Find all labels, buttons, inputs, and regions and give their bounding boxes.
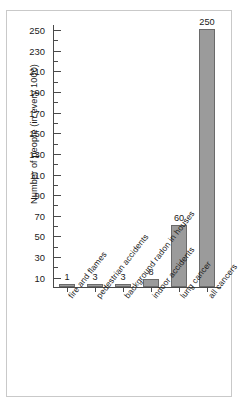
y-axis-line [53,25,54,288]
bar-value-label: 250 [199,17,214,27]
y-axis-tick-minor [54,144,58,145]
y-axis-tick-label: 190 [29,87,45,98]
y-axis-tick-minor [54,205,58,206]
chart-figure: Number of people (in every 1000) 1030507… [6,10,232,397]
y-axis-tick-label: 230 [29,45,45,56]
bar [199,29,215,287]
y-axis-tick-minor [54,61,58,62]
y-axis-tick-major [54,92,61,93]
y-axis-tick-label: 90 [35,190,45,201]
y-axis-tick-minor [54,247,58,248]
y-axis-tick-minor [54,40,58,41]
y-axis-tick-label: 10 [35,272,45,283]
y-axis-tick-major [54,71,61,72]
y-axis-tick-major [54,51,61,52]
y-axis-tick-label: 130 [29,148,45,159]
y-axis-tick-minor [54,267,58,268]
y-axis-tick-major [54,133,61,134]
y-axis-tick-label: 70 [35,210,45,221]
y-axis-tick-major [54,113,61,114]
bar-value-label: 1 [64,272,69,282]
y-axis-tick-major [54,216,61,217]
y-axis-tick-label: 250 [29,25,45,36]
y-axis-tick-minor [54,102,58,103]
y-axis-tick-major [54,278,61,279]
y-axis-tick-major [54,195,61,196]
y-axis-tick-label: 30 [35,252,45,263]
y-axis-tick-label: 50 [35,231,45,242]
y-axis-tick-minor [54,82,58,83]
y-axis-tick-major [54,30,61,31]
y-axis-tick-major [54,154,61,155]
y-axis-tick-minor [54,164,58,165]
y-axis-tick-label: 170 [29,107,45,118]
y-axis-tick-minor [54,185,58,186]
y-axis-tick-label: 110 [30,169,45,180]
y-axis-tick-major [54,175,61,176]
y-axis-tick-label: 150 [29,128,45,139]
y-axis-tick-minor [54,226,58,227]
y-axis-tick-major [54,236,61,237]
y-axis-tick-label: 210 [29,66,45,77]
y-axis-tick-minor [54,123,58,124]
y-axis-tick-major [54,257,61,258]
